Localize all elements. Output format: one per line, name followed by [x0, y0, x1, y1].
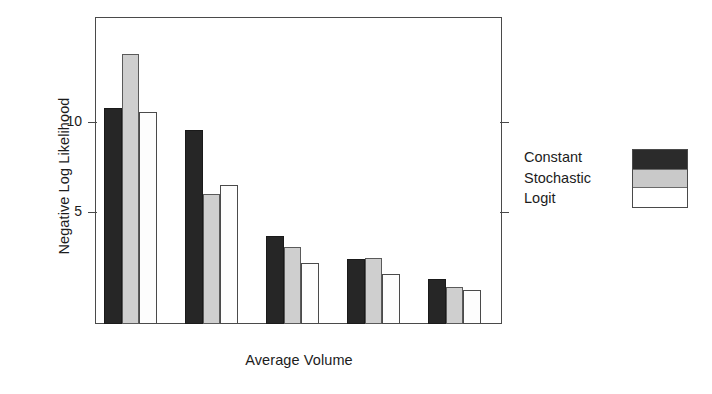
legend-label-stochastic: Stochastic: [524, 168, 628, 189]
legend-label-logit: Logit: [524, 188, 628, 209]
plot-area: [96, 18, 501, 324]
bar-stochastic-group-1: [122, 54, 140, 324]
y-tick-mark-right-5: [500, 212, 509, 213]
y-tick-label-5: 5: [52, 203, 82, 219]
bar-stochastic-group-2: [203, 194, 221, 324]
bar-constant-group-2: [185, 130, 203, 324]
legend-white-swatch: [633, 188, 687, 207]
bar-stochastic-group-3: [284, 247, 302, 324]
bar-stochastic-group-4: [365, 258, 383, 324]
y-tick-mark-right-10: [500, 122, 509, 123]
bar-logit-group-3: [301, 263, 319, 324]
legend-gray-swatch: [633, 169, 687, 188]
chart-legend: ConstantStochasticLogit: [524, 147, 700, 209]
legend-label-list: ConstantStochasticLogit: [524, 147, 628, 209]
bar-stochastic-group-5: [446, 287, 464, 324]
bar-constant-group-4: [347, 259, 365, 324]
bar-constant-group-5: [428, 279, 446, 324]
bar-chart-figure: Negative Log Likelihood 105 Average Volu…: [0, 0, 712, 394]
legend-black-swatch: [633, 150, 687, 169]
bar-constant-group-3: [266, 236, 284, 324]
bar-logit-group-5: [463, 290, 481, 324]
bar-constant-group-1: [104, 108, 122, 324]
y-tick-label-10: 10: [52, 113, 82, 129]
x-axis-title: Average Volume: [95, 352, 503, 368]
legend-label-constant: Constant: [524, 147, 628, 168]
bar-logit-group-2: [220, 185, 238, 324]
legend-swatch-stack: [632, 149, 688, 208]
bar-logit-group-1: [139, 112, 157, 324]
bar-logit-group-4: [382, 274, 400, 324]
y-axis-title: Negative Log Likelihood: [56, 46, 72, 306]
